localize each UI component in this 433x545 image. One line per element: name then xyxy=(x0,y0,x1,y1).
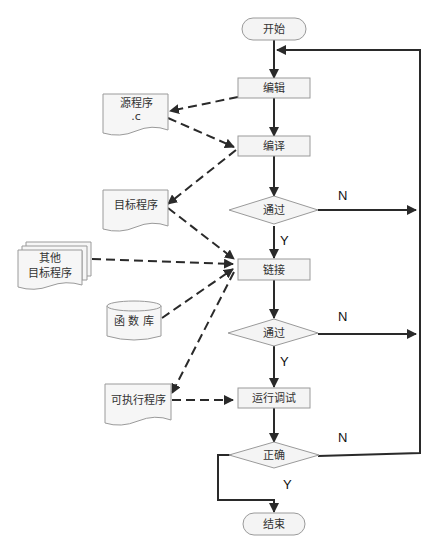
node-library-label: 函 数 库 xyxy=(114,315,154,328)
node-executable-label: 可执行程序 xyxy=(111,393,166,407)
label-pass2-no: N xyxy=(338,309,347,324)
node-link-label: 链接 xyxy=(263,263,285,277)
node-other-label-1: 其他 xyxy=(39,252,61,265)
node-source-document: 源程序 .c xyxy=(103,94,168,135)
dash-object-to-link xyxy=(168,208,234,259)
node-pass1-label: 通过 xyxy=(263,204,285,217)
node-object-label: 目标程序 xyxy=(114,198,158,212)
node-correct-label: 正确 xyxy=(263,449,285,462)
node-pass1-decision: 通过 xyxy=(229,196,318,224)
node-compile-label: 编译 xyxy=(263,139,285,153)
node-link: 链接 xyxy=(238,259,310,280)
node-source-label-1: 源程序 xyxy=(120,96,153,110)
node-start: 开始 xyxy=(242,18,306,40)
node-library-database: 函 数 库 xyxy=(107,301,161,340)
node-object-document: 目标程序 xyxy=(103,190,168,231)
node-start-label: 开始 xyxy=(263,22,285,36)
label-correct-no: N xyxy=(338,430,347,445)
node-executable-document: 可执行程序 xyxy=(105,384,171,425)
node-pass2-label: 通过 xyxy=(263,327,285,340)
label-pass1-yes: Y xyxy=(280,233,289,248)
dash-other-to-link xyxy=(92,259,233,264)
node-end: 结束 xyxy=(243,513,305,535)
node-run: 运行调试 xyxy=(238,388,310,408)
dash-library-to-link xyxy=(162,269,233,318)
dash-edit-to-source xyxy=(170,97,238,111)
node-correct-decision: 正确 xyxy=(229,442,319,468)
dash-source-to-compile xyxy=(168,118,234,147)
node-edit-label: 编辑 xyxy=(263,81,285,95)
dash-compile-to-object xyxy=(168,150,236,204)
node-end-label: 结束 xyxy=(263,518,285,531)
node-run-label: 运行调试 xyxy=(252,392,296,405)
node-other-multidocument: 其他 目标程序 xyxy=(18,242,91,289)
flowchart: 开始 编辑 编译 通过 链接 通过 运行调试 正确 结束 源程序 .c xyxy=(0,0,433,545)
node-source-label-2: .c xyxy=(131,110,141,123)
label-correct-yes: Y xyxy=(283,477,292,492)
node-pass2-decision: 通过 xyxy=(228,319,318,346)
label-pass1-no: N xyxy=(338,188,347,203)
node-edit: 编辑 xyxy=(238,78,310,98)
node-compile: 编译 xyxy=(238,136,310,156)
node-other-label-2: 目标程序 xyxy=(28,266,72,280)
label-pass2-yes: Y xyxy=(280,354,289,369)
